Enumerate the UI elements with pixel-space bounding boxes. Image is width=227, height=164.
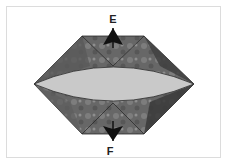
label-f: F bbox=[100, 145, 120, 157]
label-e: E bbox=[103, 13, 123, 25]
